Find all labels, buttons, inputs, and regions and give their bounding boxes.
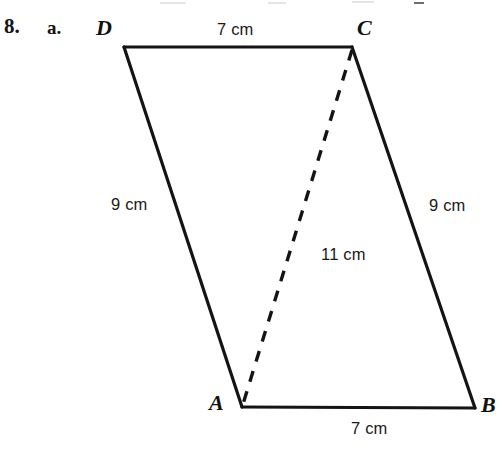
measurement-label-right-side: 9 cm — [429, 197, 466, 214]
diagonal-ac — [243, 50, 352, 404]
measurement-label-top-side: 7 cm — [217, 21, 254, 38]
measurement-label-left-side: 9 cm — [111, 196, 148, 213]
vertex-label-d: D — [96, 17, 112, 39]
vertex-label-a: A — [209, 392, 224, 414]
parallelogram-shape — [0, 0, 500, 449]
side-ab — [242, 407, 475, 408]
measurement-label-diagonal: 11 cm — [321, 246, 366, 263]
vertex-label-b: B — [481, 394, 496, 416]
vertex-label-c: C — [357, 17, 372, 39]
measurement-label-bottom-side: 7 cm — [351, 420, 388, 437]
side-da — [124, 47, 242, 407]
geometry-figure-container: 8. a. D C B A 7 cm 9 cm 9 cm 11 cm 7 cm — [0, 0, 500, 449]
side-cb — [352, 47, 475, 408]
